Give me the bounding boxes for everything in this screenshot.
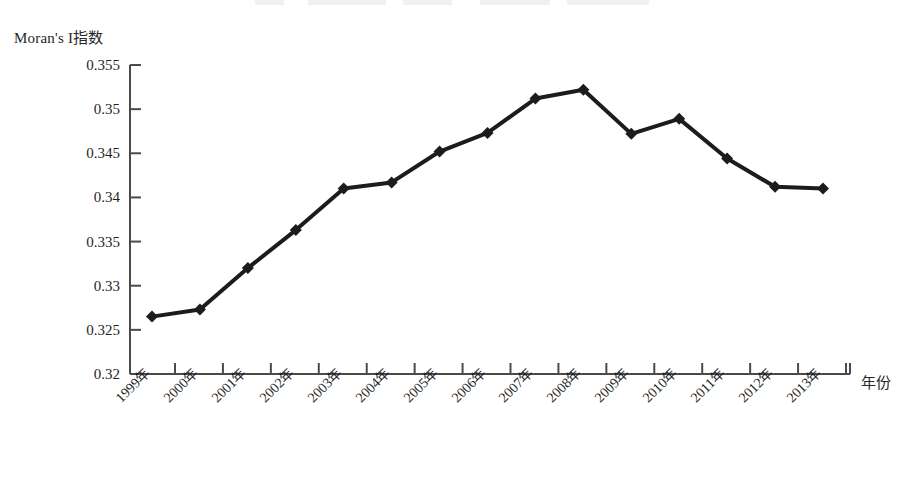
chart-root: Moran's I指数 年份 0.3550.350.3450.340.3350.… (0, 0, 923, 483)
y-tick-label: 0.355 (48, 57, 120, 74)
y-tick-label: 0.345 (48, 145, 120, 162)
line-chart-plot (0, 0, 923, 483)
series-markers (146, 84, 829, 323)
y-tick-marks (130, 109, 141, 330)
series-line (152, 90, 823, 317)
data-point-marker (146, 311, 158, 323)
y-tick-label: 0.32 (48, 366, 120, 383)
y-tick-label: 0.34 (48, 189, 120, 206)
axes-group (130, 65, 850, 374)
y-tick-label: 0.325 (48, 321, 120, 338)
y-tick-label: 0.335 (48, 233, 120, 250)
data-point-marker (817, 183, 829, 195)
y-tick-label: 0.35 (48, 101, 120, 118)
y-tick-label: 0.33 (48, 277, 120, 294)
